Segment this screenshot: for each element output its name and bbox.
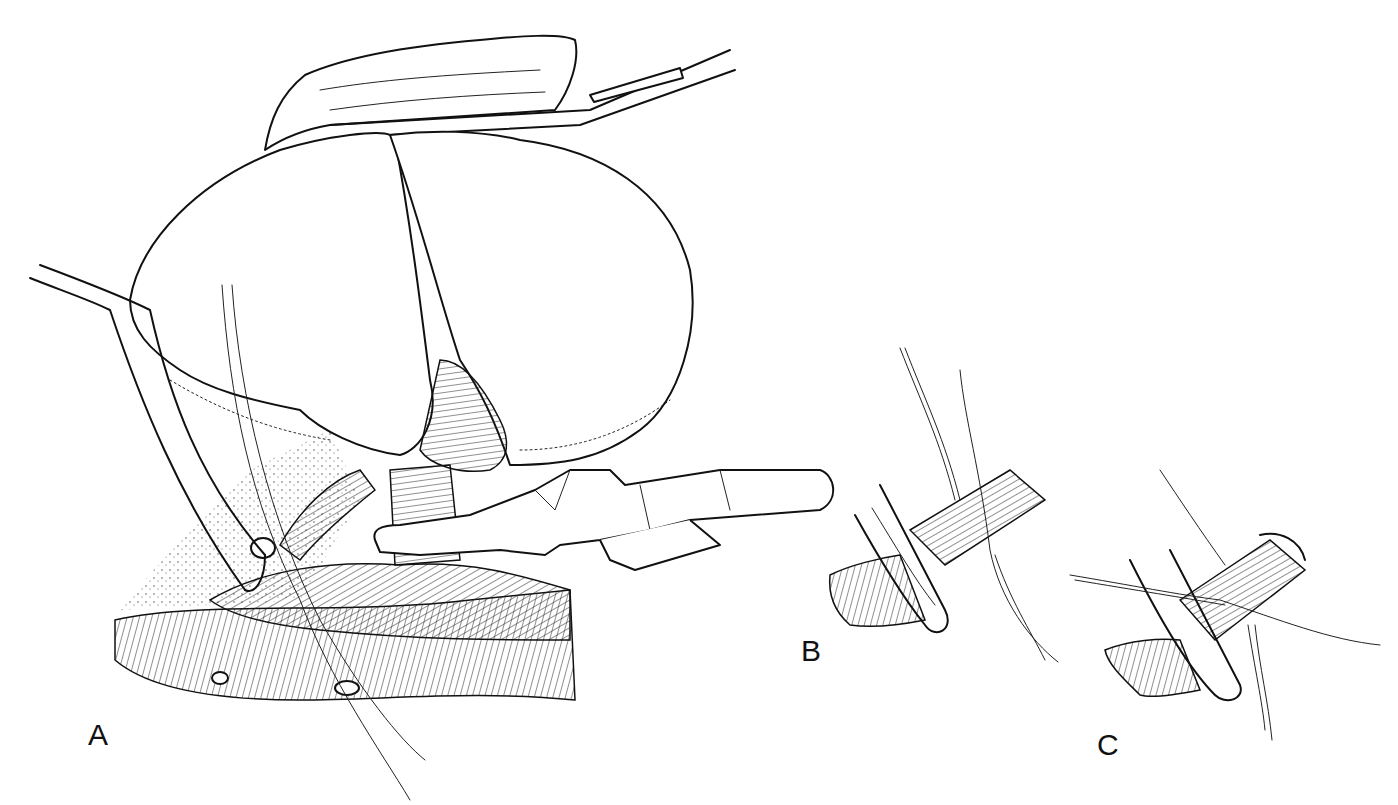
panel-label-c: C — [1097, 730, 1119, 760]
panel-c-drawing — [1070, 470, 1380, 740]
panel-b-drawing — [830, 348, 1058, 662]
panel-label-b: B — [801, 636, 821, 666]
panel-a-drawing — [30, 36, 833, 800]
panel-label-a: A — [88, 720, 108, 750]
surgical-illustration — [0, 0, 1398, 805]
